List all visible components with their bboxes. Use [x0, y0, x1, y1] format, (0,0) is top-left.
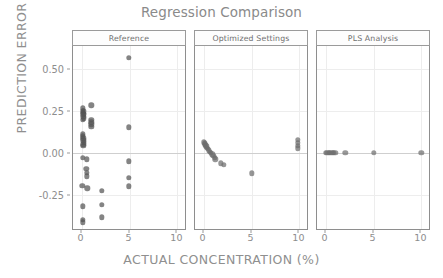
plot-area	[194, 46, 308, 230]
data-point	[80, 117, 85, 122]
plot-area	[316, 46, 430, 230]
data-point	[81, 111, 86, 116]
data-point	[99, 202, 104, 207]
grid-line-horizontal	[73, 111, 185, 112]
x-tick-label: 10	[170, 232, 182, 243]
grid-line-vertical	[177, 46, 178, 229]
grid-line-horizontal	[195, 111, 307, 112]
panel-strip-label: Optimized Settings	[194, 30, 308, 46]
data-point	[84, 157, 89, 162]
grid-line-vertical	[252, 46, 253, 229]
zero-reference-line	[73, 153, 185, 154]
data-point	[99, 215, 104, 220]
y-tick-mark	[67, 194, 70, 195]
data-point	[213, 157, 218, 162]
data-point	[249, 171, 254, 176]
data-point	[89, 124, 94, 129]
data-point	[126, 184, 131, 189]
grid-line-horizontal	[195, 69, 307, 70]
plot-area	[72, 46, 186, 230]
x-tick-label: 0	[78, 232, 84, 243]
data-point	[81, 143, 86, 148]
facet-panel: PLS Analysis0510	[316, 30, 430, 246]
x-tick-label: 5	[247, 232, 253, 243]
x-tick-label: 5	[125, 232, 131, 243]
x-tick-label: 10	[414, 232, 426, 243]
page-title: Regression Comparison	[0, 4, 443, 20]
data-point	[221, 162, 226, 167]
y-tick-label: 0.50	[42, 63, 64, 74]
grid-line-horizontal	[317, 69, 429, 70]
grid-line-vertical	[421, 46, 422, 229]
facet-panel: Optimized Settings0510	[194, 30, 308, 246]
x-axis-label: ACTUAL CONCENTRATION (%)	[0, 252, 443, 267]
grid-line-vertical	[204, 46, 205, 229]
x-axis-ticks: 0510	[72, 230, 186, 246]
grid-line-vertical	[299, 46, 300, 229]
x-axis-ticks: 0510	[316, 230, 430, 246]
y-tick-mark	[67, 152, 70, 153]
data-point	[371, 150, 376, 155]
data-point	[80, 220, 85, 225]
data-point	[88, 103, 93, 108]
data-point	[80, 203, 85, 208]
data-point	[126, 124, 131, 129]
y-tick-mark	[67, 68, 70, 69]
grid-line-horizontal	[195, 195, 307, 196]
facet-panel: Reference0510	[72, 30, 186, 246]
x-tick-label: 0	[200, 232, 206, 243]
panel-strip-label: PLS Analysis	[316, 30, 430, 46]
data-point	[333, 150, 338, 155]
y-tick-label: 0.25	[42, 105, 64, 116]
grid-line-horizontal	[317, 195, 429, 196]
grid-line-horizontal	[73, 69, 185, 70]
x-axis-ticks: 0510	[194, 230, 308, 246]
regression-comparison-figure: Regression Comparison PREDICTION ERROR 0…	[0, 0, 443, 278]
grid-line-vertical	[130, 46, 131, 229]
x-tick-label: 5	[369, 232, 375, 243]
y-tick-mark	[67, 110, 70, 111]
data-point	[126, 159, 131, 164]
data-point	[126, 175, 131, 180]
data-point	[343, 150, 348, 155]
grid-line-horizontal	[317, 111, 429, 112]
y-tick-label: -0.25	[39, 189, 64, 200]
panel-strip-label: Reference	[72, 30, 186, 46]
grid-line-vertical	[374, 46, 375, 229]
x-tick-label: 10	[292, 232, 304, 243]
y-tick-label: 0.00	[42, 147, 64, 158]
grid-line-horizontal	[73, 195, 185, 196]
x-tick-label: 0	[322, 232, 328, 243]
data-point	[84, 186, 89, 191]
grid-line-vertical	[326, 46, 327, 229]
y-axis-ticks: 0.500.250.00-0.25	[0, 46, 70, 230]
data-point	[99, 188, 104, 193]
facet-panels: Reference0510Optimized Settings0510PLS A…	[72, 30, 430, 246]
data-point	[84, 174, 89, 179]
data-point	[419, 150, 424, 155]
